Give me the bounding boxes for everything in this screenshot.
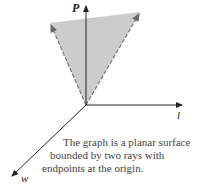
w-axis-label: w: [21, 172, 28, 184]
caption-line-2: bounded by two rays with: [50, 149, 164, 161]
planar-surface: [50, 12, 140, 105]
caption-line-3: endpoints at the origin.: [42, 162, 143, 174]
l-axis-label: l: [177, 109, 180, 121]
caption-line-1: The graph is a planar surface: [63, 136, 190, 148]
p-axis-label: P: [72, 1, 79, 16]
diagram-3d-planar-surface: P l w The graph is a planar surface boun…: [0, 0, 211, 185]
